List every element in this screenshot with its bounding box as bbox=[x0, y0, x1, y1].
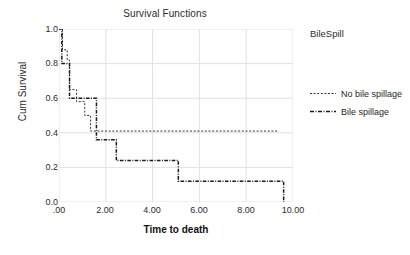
gridlines bbox=[59, 29, 293, 202]
y-axis-label: Cum Survival bbox=[17, 32, 28, 152]
legend-title: BileSpill bbox=[310, 28, 344, 39]
legend-item-no-bile-spillage[interactable]: No bile spillage bbox=[310, 86, 410, 101]
x-tick-label: 10.00 bbox=[270, 206, 316, 215]
x-tick-label: 6.00 bbox=[176, 206, 222, 215]
legend: No bile spillage Bile spillage bbox=[310, 86, 410, 122]
series-lines bbox=[59, 29, 284, 202]
x-tick-label: 2.00 bbox=[82, 206, 128, 215]
x-tick-label: 4.00 bbox=[129, 206, 175, 215]
chart-title: Survival Functions bbox=[0, 8, 330, 19]
legend-label: No bile spillage bbox=[341, 89, 402, 99]
plot-area bbox=[59, 29, 293, 202]
y-tick-label: 0.2 bbox=[18, 163, 58, 172]
x-tick-label: .00 bbox=[36, 206, 82, 215]
series-line bbox=[59, 29, 284, 202]
x-axis-label: Time to death bbox=[59, 224, 293, 235]
survival-curves-svg bbox=[59, 29, 293, 202]
legend-label: Bile spillage bbox=[341, 107, 389, 117]
legend-item-bile-spillage[interactable]: Bile spillage bbox=[310, 104, 410, 119]
legend-swatch-dashdot-icon bbox=[310, 107, 336, 116]
x-tick-label: 8.00 bbox=[223, 206, 269, 215]
legend-swatch-dotted-icon bbox=[310, 89, 336, 98]
survival-chart: Survival Functions BileSpill 1.0 0.8 0.6… bbox=[0, 0, 410, 255]
